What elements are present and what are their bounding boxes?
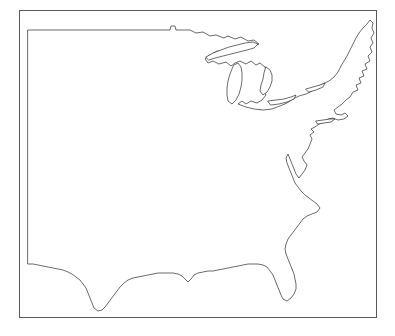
grid-center-dot [307,283,309,285]
grid-center-dot [291,51,293,53]
grid-center-dot [259,268,261,270]
grid-center-dot [323,254,325,256]
grid-center-dot [339,283,341,285]
grid-center-dot [323,268,325,270]
grid-center-dot [67,283,69,285]
grid-center-dot [323,65,325,67]
grid-center-dot [211,283,213,285]
grid-center-dot [323,239,325,241]
grid-center-dot [339,167,341,169]
grid-center-dot [323,36,325,38]
grid-center-dot [323,210,325,212]
grid-center-dot [339,254,341,256]
grid-center-dot [259,283,261,285]
grid-center-dot [323,196,325,198]
grid-center-dot [291,254,293,256]
grid-center-dot [259,51,261,53]
grid-center-dot [307,36,309,38]
grid-center-dot [323,138,325,140]
grid-center-dot [227,268,229,270]
grid-center-dot [275,36,277,38]
grid-center-dot [51,268,53,270]
grid-center-dot [339,181,341,183]
grid-center-dot [339,152,341,154]
grid-center-dot [339,268,341,270]
grid-center-dot [339,51,341,53]
grid-center-dot [291,80,293,82]
grid-center-dot [275,80,277,82]
grid-center-dot [163,283,165,285]
grid-center-dot [323,283,325,285]
grid-center-dot [291,36,293,38]
map-svg [20,11,378,319]
grid-center-dot [339,138,341,140]
grid-center-dot [323,152,325,154]
grid-center-dot [323,181,325,183]
grid-center-dot [339,109,341,111]
grid-center-dot [307,225,309,227]
grid-center-dot [131,283,133,285]
grid-center-dot [323,51,325,53]
grid-center-dot [291,65,293,67]
grid-center-dot [307,239,309,241]
grid-center-dot [147,283,149,285]
grid-center-dot [339,239,341,241]
grid-center-dot [259,36,261,38]
mainland-outline [28,20,374,311]
grid-center-dot [35,283,37,285]
grid-center-dot [307,167,309,169]
grid-center-dot [275,65,277,67]
grid-center-dot [323,123,325,125]
grid-center-dot [291,239,293,241]
grid-center-dot [291,167,293,169]
grid-center-dot [275,94,277,96]
grid-center-dot [195,283,197,285]
grid-center-dot [307,152,309,154]
grid-center-dot [307,80,309,82]
grid-center-dot [339,123,341,125]
grid-center-dot [323,80,325,82]
coastline-group [28,20,374,311]
grid-center-dot [51,283,53,285]
grid-center-dot [307,65,309,67]
grid-center-dot [307,254,309,256]
grid-center-dot [179,283,181,285]
grid-center-dot [339,210,341,212]
grid-center-dot [339,225,341,227]
grid-center-dot [243,268,245,270]
grid-center-dot [243,283,245,285]
grid-center-dot [307,268,309,270]
grid-center-dot [307,181,309,183]
grid-center-dot [339,36,341,38]
grid-center-dot [323,225,325,227]
grid-center-dot [275,51,277,53]
grid-center-dot [307,51,309,53]
map-frame [19,10,377,318]
grid-center-dot [227,283,229,285]
grid-center-dot [339,196,341,198]
grid-center-dot [35,268,37,270]
figure-container [0,0,395,336]
grid-center-dot [323,167,325,169]
